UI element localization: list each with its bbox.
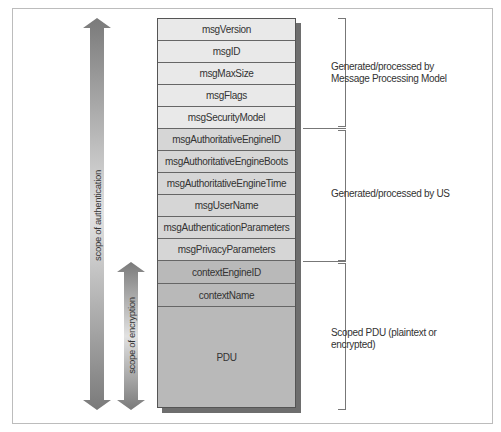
field-msgauthenticationparameters: msgAuthenticationParameters — [158, 217, 295, 239]
field-msgversion: msgVersion — [158, 19, 295, 41]
field-msgid: msgID — [158, 41, 295, 63]
encryption-scope-label: scope of encryption — [126, 291, 137, 381]
label-line: encrypted) — [331, 339, 375, 350]
label-scoped-pdu: Scoped PDU (plaintext or encrypted) — [331, 327, 437, 351]
field-msgprivacyparameters: msgPrivacyParameters — [158, 239, 295, 261]
field-pdu: PDU — [158, 307, 295, 407]
field-msgsecuritymodel: msgSecurityModel — [158, 107, 295, 129]
bracket-separator — [303, 128, 346, 129]
field-msgflags: msgFlags — [158, 85, 295, 107]
field-msgauthoritativeengineid: msgAuthoritativeEngineID — [158, 129, 295, 151]
label-line: Generated/processed by — [331, 61, 434, 72]
label-user-security: Generated/processed by US — [331, 188, 450, 200]
authentication-scope-label: scope of authentication — [92, 166, 103, 266]
bracket-separator — [303, 261, 346, 262]
field-contextengineid: contextEngineID — [158, 261, 295, 284]
field-msgauthoritativeengineboots: msgAuthoritativeEngineBoots — [158, 151, 295, 173]
field-msgusername: msgUserName — [158, 195, 295, 217]
field-msgauthoritativeenginetime: msgAuthoritativeEngineTime — [158, 173, 295, 195]
label-line: Scoped PDU (plaintext or — [331, 327, 437, 338]
label-line: Message Processing Model — [331, 73, 447, 84]
label-message-processing-model: Generated/processed by Message Processin… — [331, 61, 447, 85]
snmpv3-message-stack: msgVersion msgID msgMaxSize msgFlags msg… — [157, 18, 296, 408]
label-line: Generated/processed by US — [331, 188, 450, 199]
field-contextname: contextName — [158, 284, 295, 307]
field-msgmaxsize: msgMaxSize — [158, 63, 295, 85]
